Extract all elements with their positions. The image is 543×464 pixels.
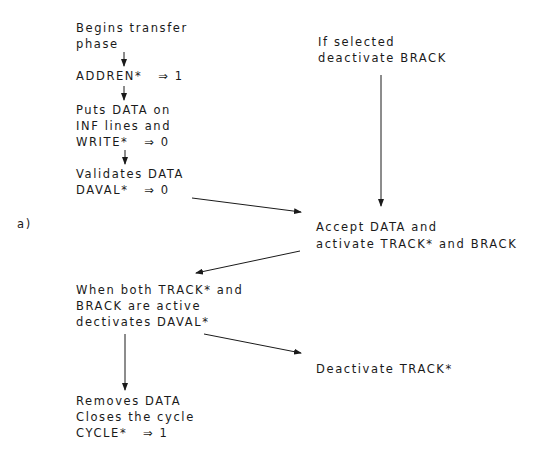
arrow-validates-to-accept (192, 198, 301, 212)
arrow-accept-to-when-both (196, 251, 300, 273)
flow-arrows (0, 0, 543, 464)
arrow-when-both-to-deactivate (204, 334, 301, 353)
